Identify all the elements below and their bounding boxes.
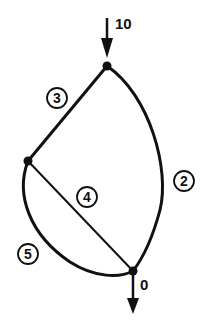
inflow-label: 10 xyxy=(115,15,132,32)
edge-label-2-text: 2 xyxy=(180,173,188,189)
outflow-arrow xyxy=(127,271,139,314)
edge-label-3-text: 3 xyxy=(53,90,61,106)
inflow-arrow xyxy=(101,18,113,58)
edge-4 xyxy=(28,161,133,271)
node-left xyxy=(24,157,33,166)
edge-5 xyxy=(23,161,133,275)
edge-label-2: 2 xyxy=(174,171,194,191)
network-diagram: 10 0 3 2 4 xyxy=(0,0,205,326)
edge-3 xyxy=(28,66,107,161)
edge-label-4-text: 4 xyxy=(83,189,91,205)
node-top xyxy=(103,62,112,71)
edge-label-4: 4 xyxy=(77,187,97,207)
edge-label-3: 3 xyxy=(47,88,67,108)
edge-2 xyxy=(107,66,163,271)
edge-label-5-text: 5 xyxy=(24,246,32,262)
outflow-label: 0 xyxy=(140,276,148,293)
edge-label-5: 5 xyxy=(18,244,38,264)
